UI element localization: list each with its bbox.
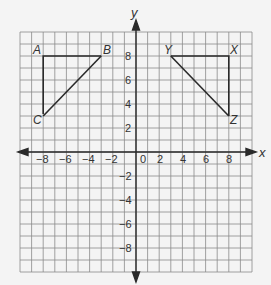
vertex-label-x: X xyxy=(229,43,239,57)
x-axis-arrow-right xyxy=(246,149,256,156)
x-tick-label: −4 xyxy=(82,153,95,165)
x-tick-label: 8 xyxy=(226,153,232,165)
x-tick-label: 0 xyxy=(140,153,146,165)
y-axis-arrow-down xyxy=(133,272,140,282)
x-axis-label: x xyxy=(258,145,266,160)
y-axis-arrow-up xyxy=(133,20,140,30)
vertex-label-b: B xyxy=(103,43,111,57)
y-tick-label: 6 xyxy=(125,74,131,86)
vertex-label-z: Z xyxy=(229,113,238,127)
y-axis-label: y xyxy=(130,5,139,20)
y-tick-label: −2 xyxy=(119,170,132,182)
vertex-label-a: A xyxy=(32,43,41,57)
y-tick-label: −4 xyxy=(119,194,132,206)
x-tick-label: −6 xyxy=(59,153,72,165)
y-tick-label: −8 xyxy=(119,242,132,254)
triangle-xyz xyxy=(171,56,229,116)
vertex-label-c: C xyxy=(33,113,42,127)
axes xyxy=(18,20,256,282)
y-tick-label: 4 xyxy=(125,98,131,110)
x-tick-label: −2 xyxy=(105,153,118,165)
x-tick-labels: −8 −6 −4 −2 0 2 4 6 8 xyxy=(36,153,232,165)
coordinate-plane: y x A B C X Y Z −8 −6 −4 −2 0 2 4 6 8 8 … xyxy=(0,0,271,285)
vertex-label-y: Y xyxy=(164,43,173,57)
x-tick-label: 2 xyxy=(157,153,163,165)
y-tick-label: 2 xyxy=(125,122,131,134)
y-tick-label: 8 xyxy=(125,50,131,62)
x-tick-label: 4 xyxy=(180,153,186,165)
triangle-abc xyxy=(43,56,101,116)
x-tick-label: −8 xyxy=(36,153,49,165)
x-axis-arrow-left xyxy=(18,149,28,156)
y-tick-label: −6 xyxy=(119,218,132,230)
x-tick-label: 6 xyxy=(203,153,209,165)
